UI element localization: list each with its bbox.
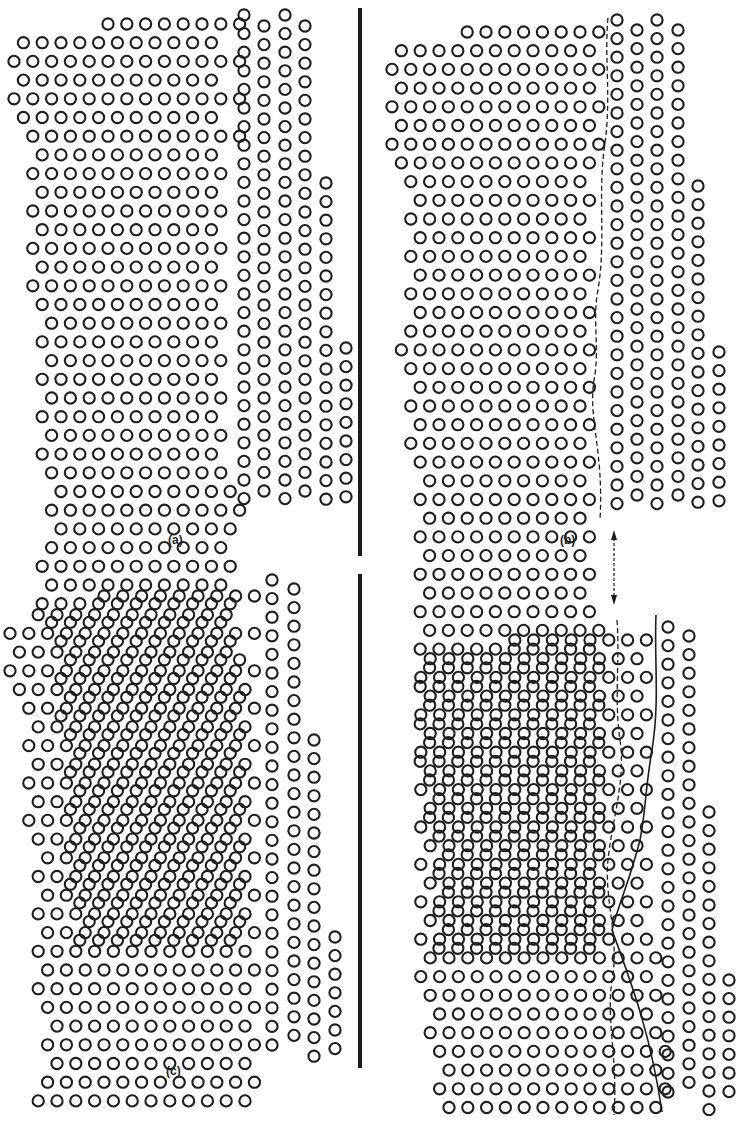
atom-left-grain-a (206, 37, 217, 48)
atom-right-grain-d (662, 919, 673, 930)
atom-right-grain-d (683, 928, 694, 939)
atom-left-grain-c (42, 927, 53, 938)
atom-right-grain-d (662, 677, 673, 688)
atom-right-grain-a (279, 233, 290, 244)
atom-right-grain-a (320, 177, 331, 188)
atom-left-grain-c (202, 1058, 213, 1069)
atom-left-grain-d (537, 1102, 548, 1113)
atom-right-grain-a (238, 214, 249, 225)
atom-right-grain-a (238, 363, 249, 374)
atom-left-grain-a (168, 149, 179, 160)
atom-left-grain-a (46, 243, 57, 254)
atom-left-grain-c (70, 1095, 81, 1106)
atom-left-grain-a (149, 75, 160, 86)
atom-left-grain-d (641, 634, 652, 645)
atom-left-grain-d (462, 952, 473, 963)
atom-right-grain-c (266, 1021, 277, 1032)
atom-left-grain-c (61, 815, 72, 826)
atom-left-grain-b (452, 644, 463, 655)
atom-right-grain-b (631, 489, 642, 500)
atom-left-grain-a (102, 318, 113, 329)
atom-left-grain-c (61, 890, 72, 901)
atom-left-grain-b (556, 139, 567, 150)
atom-left-grain-b (509, 494, 520, 505)
atom-left-grain-b (546, 606, 557, 617)
atom-left-grain-d (415, 971, 426, 982)
atom-right-grain-b (611, 70, 622, 81)
atom-right-grain-a (279, 437, 290, 448)
atom-left-grain-b (499, 26, 510, 37)
atom-left-grain-d (584, 1083, 595, 1094)
atom-left-grain-b (574, 326, 585, 337)
atom-left-grain-b (527, 606, 538, 617)
atom-left-grain-b (480, 251, 491, 262)
atom-left-grain-b (565, 120, 576, 131)
atom-right-grain-c (266, 946, 277, 957)
arrow-down-icon (611, 595, 617, 605)
atom-left-grain-d (509, 1008, 520, 1019)
atom-left-grain-b (433, 157, 444, 168)
atom-left-grain-b (405, 288, 416, 299)
atom-left-grain-d (443, 1027, 454, 1038)
atom-left-grain-b (565, 157, 576, 168)
atom-right-grain-d (703, 974, 714, 985)
atom-right-grain-b (651, 238, 662, 249)
atom-left-grain-b (556, 363, 567, 374)
atom-left-grain-c (249, 665, 260, 676)
atom-left-grain-b (424, 101, 435, 112)
atom-left-grain-b (556, 288, 567, 299)
atom-right-grain-a (238, 456, 249, 467)
atom-left-grain-b (452, 494, 463, 505)
atom-left-grain-c (4, 665, 15, 676)
atom-left-grain-d (631, 915, 642, 926)
atom-left-grain-d (462, 1102, 473, 1113)
atom-right-grain-d (683, 947, 694, 958)
atom-left-grain-b (546, 157, 557, 168)
atom-left-grain-a (74, 112, 85, 123)
atom-left-grain-b (443, 400, 454, 411)
atom-left-grain-a (140, 205, 151, 216)
atom-left-grain-a (178, 205, 189, 216)
atom-left-grain-d (584, 971, 595, 982)
atom-right-grain-b (672, 471, 683, 482)
atom-left-grain-d (481, 952, 492, 963)
atom-left-grain-c (61, 964, 72, 975)
atom-left-grain-b (396, 157, 407, 168)
atom-left-grain-b (537, 400, 548, 411)
atom-left-grain-a (187, 75, 198, 86)
atom-right-grain-b (692, 180, 703, 191)
atom-left-grain-d (566, 1046, 577, 1057)
atom-right-grain-c (288, 732, 299, 743)
atom-left-grain-c (51, 834, 62, 845)
atom-left-grain-d (547, 1083, 558, 1094)
atom-left-grain-a (27, 56, 38, 67)
atom-right-grain-a (258, 337, 269, 348)
atom-left-grain-b (537, 26, 548, 37)
atom-right-grain-b (651, 461, 662, 472)
atom-left-grain-a (93, 561, 104, 572)
atom-right-grain-b (651, 163, 662, 174)
atom-left-grain-b (518, 363, 529, 374)
atom-right-grain-c (308, 1032, 319, 1043)
atom-left-grain-b (415, 569, 426, 580)
atom-left-grain-a (74, 374, 85, 385)
atom-left-grain-b (527, 232, 538, 243)
atom-left-grain-a (159, 392, 170, 403)
atom-left-grain-b (546, 307, 557, 318)
atom-right-grain-b (651, 368, 662, 379)
atom-right-grain-c (266, 574, 277, 585)
atom-left-grain-b (574, 400, 585, 411)
atom-left-grain-b (574, 64, 585, 75)
atom-right-grain-b (713, 346, 724, 357)
atom-left-grain-d (613, 990, 624, 1001)
atom-left-grain-c (23, 703, 34, 714)
atom-right-grain-b (672, 434, 683, 445)
atom-left-grain-a (46, 355, 57, 366)
atom-left-grain-a (159, 131, 170, 142)
atom-right-grain-a (299, 299, 310, 310)
atom-left-grain-d (434, 971, 445, 982)
atom-left-grain-b (584, 120, 595, 131)
atom-right-grain-a (299, 281, 310, 292)
atom-right-grain-b (672, 489, 683, 500)
atom-right-grain-b (611, 256, 622, 267)
